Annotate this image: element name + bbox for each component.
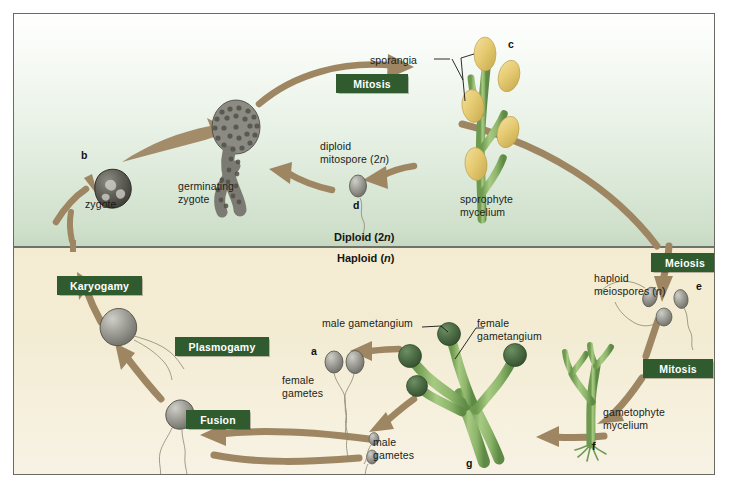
haploid-region-label: Haploid (n) [337,252,394,264]
marker-c: c [508,38,514,50]
label-female-gametangium: female gametangium [477,317,542,342]
label-diploid-mitospore: diploid mitospore (2n) [320,140,389,165]
diploid-region-background [14,14,714,247]
figure-panel: Mitosis Meiosis Mitosis Karyogamy Plasmo… [13,13,715,475]
life-cycle-figure: Mitosis Meiosis Mitosis Karyogamy Plasmo… [0,0,729,491]
marker-f: f [592,440,596,452]
process-box-fusion[interactable]: Fusion [186,410,250,429]
diploid-label-text: Diploid (2 [334,231,384,243]
marker-a: a [311,345,317,357]
label-female-gametes: female gametes [282,374,323,399]
marker-d: d [353,199,359,211]
process-box-karyogamy[interactable]: Karyogamy [57,276,142,295]
process-box-plasmogamy[interactable]: Plasmogamy [175,337,269,356]
label-sporangia: sporangia [370,54,417,67]
label-haploid-meiospores: haploid meiospores (n) [594,272,666,297]
marker-e: e [696,280,702,292]
label-germinating-zygote: germinating zygote [178,180,234,205]
marker-b: b [81,149,87,161]
process-box-mitosis-top[interactable]: Mitosis [336,74,408,93]
label-sporophyte-mycelium: sporophyte mycelium [460,193,513,218]
diploid-region-label: Diploid (2n) [334,231,395,243]
label-zygote: zygote [85,198,117,211]
marker-g: g [466,457,472,469]
process-box-meiosis[interactable]: Meiosis [651,253,715,272]
haploid-label-text: Haploid ( [337,252,384,264]
process-box-mitosis-bottom[interactable]: Mitosis [643,359,713,378]
label-male-gametes: male gametes [373,436,414,461]
label-gametophyte-mycelium: gametophyte mycelium [603,406,665,431]
ploidy-divider [14,246,714,248]
label-male-gametangium: male gametangium [322,317,413,330]
